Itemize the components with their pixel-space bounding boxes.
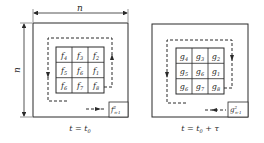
grid-cell: f1 bbox=[92, 66, 99, 76]
kernel-grid: g4 g3 g2 g5 g6 g1 g6 g7 g8 bbox=[176, 48, 224, 94]
down-arrow-icon bbox=[230, 55, 234, 61]
left-arrow-icon bbox=[211, 108, 217, 112]
height-label: n bbox=[12, 67, 22, 73]
right-arrow-icon bbox=[95, 107, 101, 111]
time-caption-left: t = t0 bbox=[69, 124, 91, 134]
grid-cell: g2 bbox=[212, 52, 220, 62]
right-panel: g4 g3 g2 g5 g6 g1 g6 g7 g8 g2n-1 t = t0 … bbox=[152, 24, 248, 134]
grid-cell: g1 bbox=[212, 67, 220, 77]
grid-cell: f5 bbox=[60, 66, 67, 76]
grid-cell: f3 bbox=[76, 51, 83, 61]
grid-cell: g6 bbox=[180, 82, 189, 92]
grid-cell: g5 bbox=[180, 67, 188, 77]
left-panel: n n f4 f3 f2 f5 f6 f1 f6 f7 f8 bbox=[12, 3, 128, 134]
grid-cell: g6 bbox=[196, 67, 205, 77]
up-arrow-icon bbox=[110, 54, 114, 60]
down-arrow-icon bbox=[46, 72, 50, 78]
grid-cell: f6 bbox=[76, 66, 84, 76]
grid-cell: f4 bbox=[60, 51, 67, 61]
grid-cell: g7 bbox=[196, 82, 205, 92]
grid-cell: f7 bbox=[76, 81, 84, 91]
grid-cell: f6 bbox=[60, 81, 68, 91]
width-label: n bbox=[77, 3, 83, 13]
grid-cell: g8 bbox=[212, 82, 220, 92]
grid-cell: f2 bbox=[92, 51, 99, 61]
grid-cell: g4 bbox=[180, 52, 188, 62]
scan-diagram: n n f4 f3 f2 f5 f6 f1 f6 f7 f8 bbox=[0, 0, 264, 143]
grid-cell: f8 bbox=[92, 81, 99, 91]
time-caption-right: t = t0 + τ bbox=[181, 124, 219, 134]
kernel-grid: f4 f3 f2 f5 f6 f1 f6 f7 f8 bbox=[56, 47, 104, 93]
down-arrow-icon bbox=[165, 72, 169, 78]
grid-cell: g3 bbox=[196, 52, 204, 62]
